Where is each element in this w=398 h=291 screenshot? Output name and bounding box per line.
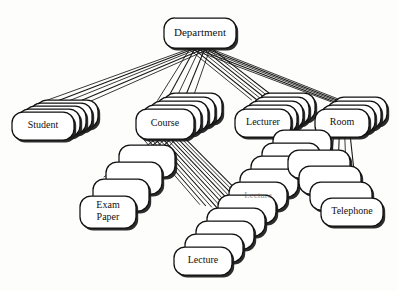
node-telephone[interactable]: Telephone xyxy=(288,150,385,228)
node-label: Paper xyxy=(97,211,120,222)
node-label: Student xyxy=(28,119,59,130)
node-exam-paper[interactable]: ExamPaper xyxy=(80,145,177,230)
ghost-label-layer: Lecture xyxy=(244,190,271,200)
node-label: Room xyxy=(330,116,355,127)
diagram-canvas: DepartmentStudentCourseLecturerRoomExamP… xyxy=(0,0,398,291)
node-label: Lecturer xyxy=(246,116,281,127)
node-label: Exam xyxy=(96,199,120,210)
node-label: Lecture xyxy=(188,254,219,265)
node-student[interactable]: Student xyxy=(12,100,100,142)
ghost-node-label: Lecture xyxy=(244,190,271,200)
node-label: Telephone xyxy=(331,205,373,216)
node-label: Course xyxy=(151,117,180,128)
object-model-diagram: DepartmentStudentCourseLecturerRoomExamP… xyxy=(0,0,398,291)
node-layer: DepartmentStudentCourseLecturerRoomExamP… xyxy=(12,18,389,277)
node-label: Department xyxy=(174,26,226,38)
node-department[interactable]: Department xyxy=(164,18,238,50)
node-course[interactable]: Course xyxy=(136,93,224,141)
